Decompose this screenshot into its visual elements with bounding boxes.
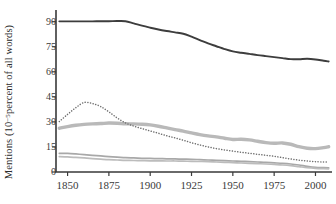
chart-container: Mentions (10−5 percent of all words) 015… bbox=[0, 0, 336, 204]
plot-area bbox=[0, 0, 336, 204]
axis-spines bbox=[56, 10, 332, 172]
data-series-line bbox=[59, 123, 328, 149]
data-series-line bbox=[59, 21, 328, 61]
